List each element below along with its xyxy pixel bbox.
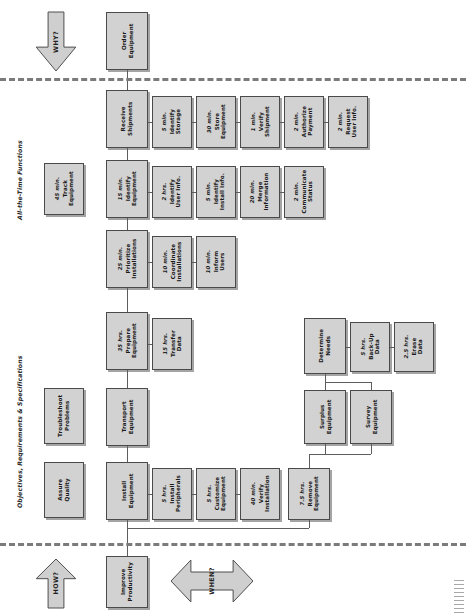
node-time-request_user_info: 2 min. bbox=[337, 106, 344, 138]
node-improve_productivity[interactable]: ImproveProductivity bbox=[106, 556, 148, 608]
node-receive_shipments[interactable]: ReceiveShipments bbox=[106, 90, 148, 148]
node-transport_equipment[interactable]: TransportEquipment bbox=[106, 388, 148, 446]
node-name-backup_data: Back-UpData bbox=[367, 334, 381, 361]
node-name-remove_equipment: RemoveEquipment bbox=[306, 477, 320, 512]
node-identify_equipment[interactable]: 15 min.IdentifyEquipment bbox=[106, 160, 148, 218]
node-time-install_peripherals: 5 hrs. bbox=[161, 475, 168, 512]
connector-backup-erase bbox=[390, 347, 394, 348]
node-label-survey_equipment: SurveyEquipment bbox=[364, 400, 378, 435]
node-order_equipment[interactable]: OrderEquipment bbox=[106, 12, 148, 70]
arrow-why-text: WHY? bbox=[52, 31, 60, 53]
node-communicate_status[interactable]: 2 min.CommunicateStatus bbox=[284, 166, 324, 218]
node-name-order_equipment: OrderEquipment bbox=[120, 24, 134, 59]
node-time-remove_equipment: 7.5 hrs. bbox=[298, 477, 305, 512]
connector-merge-communicate bbox=[280, 192, 284, 193]
node-label-track_equipment: 45 min.TrackEquipment bbox=[53, 172, 74, 207]
node-name-receive_shipments: ReceiveShipments bbox=[120, 102, 134, 136]
node-label-identify_user_info: 2 hrs.IdentifyUser Info. bbox=[161, 176, 182, 208]
connector-store-verify bbox=[236, 122, 240, 123]
node-store_equipment[interactable]: 30 min.StoreEquipment bbox=[196, 96, 236, 148]
node-label-surplus_equipment: SurplusEquipment bbox=[318, 400, 332, 435]
connector-receive-to-identify bbox=[127, 148, 128, 160]
connector-install-down bbox=[127, 520, 128, 528]
node-name-verify_installation: VerifyInstallation bbox=[257, 476, 271, 513]
node-time-backup_data: 5 hrs. bbox=[359, 334, 366, 361]
connector-identifystorage-store bbox=[192, 122, 196, 123]
connector-install-peripherals bbox=[148, 494, 152, 495]
connector-receive-identifystorage bbox=[148, 122, 152, 123]
node-label-identify_equipment: 15 min.IdentifyEquipment bbox=[116, 172, 137, 207]
node-surplus_equipment[interactable]: SurplusEquipment bbox=[304, 390, 346, 444]
node-name-determine_needs: DetermineNeeds bbox=[318, 329, 332, 363]
scope-line-top bbox=[0, 78, 466, 81]
node-inform_users[interactable]: 10 min.InformUsers bbox=[196, 236, 236, 288]
node-determine_needs[interactable]: DetermineNeeds bbox=[304, 318, 346, 374]
node-time-coordinate_installations: 10 min. bbox=[161, 242, 168, 282]
connector-peripherals-customize bbox=[192, 494, 196, 495]
node-identify_user_info[interactable]: 2 hrs.IdentifyUser Info. bbox=[152, 166, 192, 218]
node-merge_information[interactable]: 20 min.MergeInformation bbox=[240, 166, 280, 218]
connector-coordinate-inform bbox=[192, 262, 196, 263]
node-time-erase_data: 2.5 hrs. bbox=[403, 335, 410, 359]
connector-userinfo-installinfo bbox=[192, 192, 196, 193]
node-name-authorize_payment: AuthorizePayment bbox=[301, 106, 315, 137]
node-erase_data[interactable]: 2.5 hrs.EraseData bbox=[394, 322, 434, 372]
connector-installinfo-merge bbox=[236, 192, 240, 193]
node-label-improve_productivity: ImproveProductivity bbox=[120, 562, 134, 601]
node-transfer_data[interactable]: 15 hrs.TransferData bbox=[152, 318, 192, 370]
node-assure_quality[interactable]: AssureQuality bbox=[44, 462, 84, 518]
node-name-inform_users: InformUsers bbox=[213, 250, 227, 273]
node-name-merge_information: MergeInformation bbox=[257, 173, 271, 211]
node-time-communicate_status: 2 min. bbox=[293, 170, 300, 214]
node-name-identify_user_info: IdentifyUser Info. bbox=[169, 176, 183, 208]
node-label-verify_installation: 40 min.VerifyInstallation bbox=[249, 476, 270, 513]
arrow-why-label: WHY? bbox=[24, 20, 88, 64]
fast-diagram-canvas: OrderEquipmentReceiveShipments5 min.Iden… bbox=[0, 0, 466, 616]
node-label-erase_data: 2.5 hrs.EraseData bbox=[403, 335, 424, 359]
node-customize_equipment[interactable]: 5 hrs.CustomizeEquipment bbox=[196, 468, 236, 520]
node-name-verify_shipment: VerifyShipment bbox=[257, 107, 271, 138]
node-name-identify_install_info: IdentifyInstall Info. bbox=[213, 173, 227, 210]
arrow-why: WHY? bbox=[34, 10, 78, 74]
node-coordinate_installations[interactable]: 10 min.CoordinateInstallations bbox=[152, 236, 192, 288]
connector-identify-to-prioritize bbox=[127, 218, 128, 230]
connector-prepare-to-transport bbox=[127, 370, 128, 388]
node-install_peripherals[interactable]: 5 hrs.InstallPeripherals bbox=[152, 468, 192, 520]
node-troubleshoot_problems[interactable]: TroubleshootProblems bbox=[44, 388, 84, 444]
node-install_equipment[interactable]: InstallEquipment bbox=[106, 462, 148, 520]
node-name-troubleshoot_problems: TroubleshootProblems bbox=[57, 395, 71, 437]
node-authorize_payment[interactable]: 2 min.AuthorizePayment bbox=[284, 96, 324, 148]
node-verify_installation[interactable]: 40 min.VerifyInstallation bbox=[240, 468, 280, 520]
node-time-inform_users: 10 min. bbox=[205, 250, 212, 273]
node-label-coordinate_installations: 10 min.CoordinateInstallations bbox=[161, 242, 182, 282]
node-label-authorize_payment: 2 min.AuthorizePayment bbox=[293, 106, 314, 137]
node-label-customize_equipment: 5 hrs.CustomizeEquipment bbox=[205, 477, 226, 512]
node-label-inform_users: 10 min.InformUsers bbox=[205, 250, 226, 273]
node-remove_equipment[interactable]: 7.5 hrs.RemoveEquipment bbox=[288, 468, 330, 520]
node-backup_data[interactable]: 5 hrs.Back-UpData bbox=[350, 322, 390, 372]
node-name-survey_equipment: SurveyEquipment bbox=[364, 400, 378, 435]
node-survey_equipment[interactable]: SurveyEquipment bbox=[350, 390, 392, 444]
node-verify_shipment[interactable]: 1 min.VerifyShipment bbox=[240, 96, 280, 148]
node-name-communicate_status: CommunicateStatus bbox=[301, 170, 315, 214]
node-track_equipment[interactable]: 45 min.TrackEquipment bbox=[44, 163, 84, 215]
node-time-merge_information: 20 min. bbox=[249, 173, 256, 211]
node-identify_install_info[interactable]: 5 min.IdentifyInstall Info. bbox=[196, 166, 236, 218]
node-label-prioritize_installations: 25 min.PrioritizeInstallations bbox=[116, 239, 137, 279]
node-prepare_equipment[interactable]: 35 hrs.PrepareEquipment bbox=[106, 312, 148, 370]
connector-survey-down bbox=[371, 444, 372, 454]
node-time-identify_user_info: 2 hrs. bbox=[161, 176, 168, 208]
node-label-request_user_info: 2 min.RequestUser Info. bbox=[337, 106, 358, 138]
node-request_user_info[interactable]: 2 min.RequestUser Info. bbox=[328, 96, 368, 148]
node-name-install_peripherals: InstallPeripherals bbox=[169, 475, 183, 512]
connector-remove-down bbox=[309, 520, 310, 528]
arrow-how: HOW? bbox=[34, 556, 78, 610]
node-identify_storage[interactable]: 5 min.IdentifyStorage bbox=[152, 96, 192, 148]
node-name-store_equipment: StoreEquipment bbox=[213, 105, 227, 140]
caption-objectives-requirements: Objectives, Requirements & Specification… bbox=[16, 356, 23, 508]
caption-all-time-functions: All-the-Time Functions bbox=[16, 140, 23, 220]
node-label-merge_information: 20 min.MergeInformation bbox=[249, 173, 270, 211]
node-prioritize_installations[interactable]: 25 min.PrioritizeInstallations bbox=[106, 230, 148, 288]
connector-prioritize-to-prepare bbox=[127, 288, 128, 312]
arrow-when-text: WHEN? bbox=[208, 567, 216, 594]
